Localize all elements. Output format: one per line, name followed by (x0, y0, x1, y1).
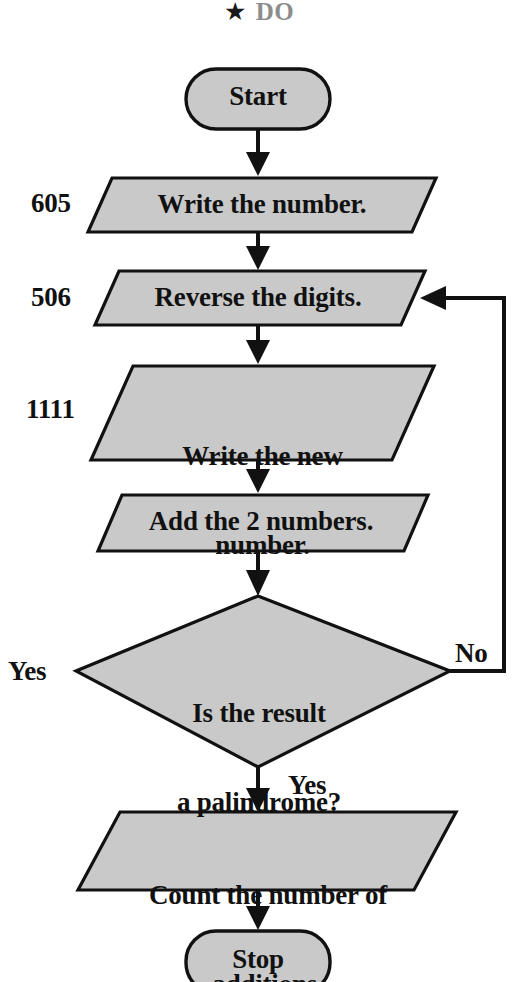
count-additions-line1: Count the number of (108, 881, 428, 911)
add-numbers-label: Add the 2 numbers. (108, 508, 414, 536)
branch-label-yes-down: Yes (288, 772, 326, 800)
write-number-label: Write the number. (100, 191, 424, 219)
start-label: Start (186, 83, 330, 111)
write-new-number-line1: Write the new (112, 442, 413, 472)
write-new-number-label: Write the new number. (112, 383, 413, 621)
flowchart-page: ★ DO (0, 0, 518, 982)
annotation-506: 506 (31, 284, 71, 312)
arrowhead-write-reverse (246, 246, 270, 270)
decision-line2: a palindrome? (128, 788, 390, 818)
decision-line1: Is the result (128, 699, 390, 729)
annotation-605: 605 (31, 190, 71, 218)
branch-label-no-right: No (455, 640, 488, 668)
branch-label-yes-left: Yes (8, 658, 46, 686)
edge-decision-no-loop (443, 298, 504, 671)
reverse-digits-label: Reverse the digits. (105, 284, 411, 312)
arrowhead-reverse-writenew (246, 340, 270, 364)
annotation-1111: 1111 (26, 396, 75, 424)
stop-label: Stop (186, 946, 330, 974)
arrowhead-loop-into-reverse (420, 286, 446, 310)
arrowhead-start-write (246, 152, 270, 176)
